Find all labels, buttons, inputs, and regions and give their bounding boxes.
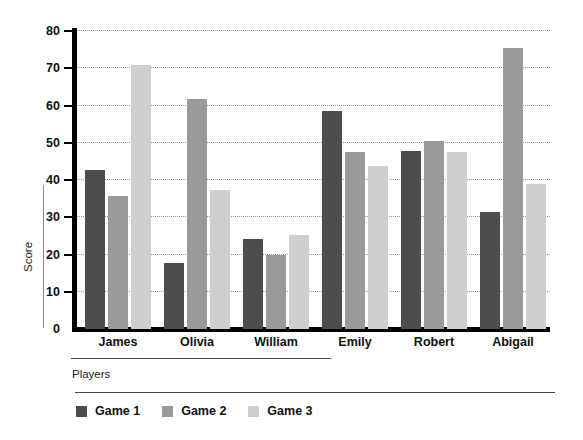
y-axis-tick-label: 80 — [30, 25, 60, 37]
y-axis-tick-label: 20 — [30, 249, 60, 261]
bar — [322, 111, 342, 329]
y-axis-tick — [64, 254, 72, 256]
legend-swatch-icon — [248, 406, 259, 417]
x-axis-category-label: William — [231, 335, 321, 349]
bar — [447, 152, 467, 329]
x-axis-category-label: Olivia — [152, 335, 242, 349]
legend-item[interactable]: Game 2 — [162, 404, 226, 418]
y-axis-tick-label-text: 80 — [34, 25, 60, 38]
bar — [345, 152, 365, 329]
bar — [243, 239, 263, 329]
y-axis-tick-label: 40 — [30, 174, 60, 186]
y-axis-tick-label: 30 — [30, 211, 60, 223]
bar — [503, 48, 523, 329]
y-axis-tick-label-text: 50 — [34, 137, 60, 150]
y-axis-tick — [64, 67, 72, 69]
y-axis-tick — [64, 30, 72, 32]
bar — [210, 190, 230, 329]
y-axis-title: Score — [22, 242, 34, 272]
bar-chart: 01020304050607080 JamesOliviaWilliamEmil… — [0, 0, 583, 440]
divider-above-legend — [75, 392, 555, 393]
y-axis-tick-label-text: 0 — [34, 323, 60, 336]
bar — [131, 65, 151, 329]
bar-series-layer — [76, 31, 550, 329]
legend-item[interactable]: Game 1 — [76, 404, 140, 418]
x-axis-category-label: Abigail — [468, 335, 558, 349]
y-axis-tick-label: 50 — [30, 137, 60, 149]
bar — [289, 235, 309, 329]
y-axis-tick — [64, 291, 72, 293]
y-axis-tick-label: 10 — [30, 286, 60, 298]
y-axis-tick-label-text: 10 — [34, 286, 60, 299]
bar — [108, 196, 128, 329]
bar — [480, 212, 500, 329]
x-axis-title: Players — [72, 368, 110, 380]
y-axis-tick-label: 0 — [30, 323, 60, 335]
x-axis-category-label: Emily — [310, 335, 400, 349]
y-axis-title-rule — [43, 185, 44, 328]
legend-item[interactable]: Game 3 — [248, 404, 312, 418]
y-axis-tick-label: 70 — [30, 62, 60, 74]
legend-swatch-icon — [76, 406, 87, 417]
y-axis-tick-label-text: 40 — [34, 174, 60, 187]
bar — [164, 263, 184, 329]
y-axis-tick-label-text: 70 — [34, 62, 60, 75]
x-axis-category-label: Robert — [389, 335, 479, 349]
bar — [368, 166, 388, 329]
y-axis-tick-label: 60 — [30, 100, 60, 112]
divider-above-x-axis-title — [71, 358, 331, 359]
bar — [424, 141, 444, 329]
legend-label: Game 3 — [267, 404, 312, 418]
y-axis-tick — [64, 216, 72, 218]
y-axis-tick-label-text: 60 — [34, 100, 60, 113]
y-axis-tick-label-text: 30 — [34, 211, 60, 224]
bar — [526, 184, 546, 329]
y-axis-tick — [64, 105, 72, 107]
legend-label: Game 1 — [95, 404, 140, 418]
bar — [85, 170, 105, 329]
legend-swatch-icon — [162, 406, 173, 417]
bar — [187, 99, 207, 329]
x-axis-category-label: James — [73, 335, 163, 349]
y-axis-tick — [64, 179, 72, 181]
legend: Game 1Game 2Game 3 — [76, 404, 335, 418]
bar — [401, 151, 421, 329]
legend-label: Game 2 — [181, 404, 226, 418]
y-axis-tick — [64, 142, 72, 144]
bar — [266, 255, 286, 330]
y-axis-tick-label-text: 20 — [34, 249, 60, 262]
